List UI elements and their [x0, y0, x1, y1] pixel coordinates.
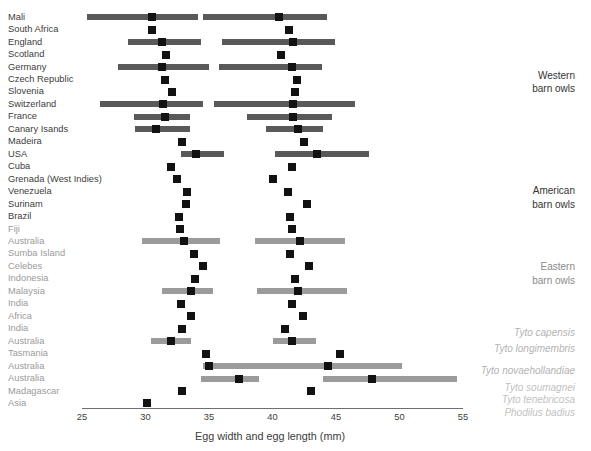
egg-width-mean-marker — [178, 138, 186, 146]
plot-area: MaliSouth AfricaEnglandScotlandGermanyCz… — [0, 0, 591, 451]
annotation-eastern-barn-owls: Eastern barn owls — [532, 260, 575, 287]
row-label: South Africa — [8, 24, 58, 34]
egg-length-mean-marker — [269, 175, 277, 183]
egg-length-mean-marker — [303, 200, 311, 208]
egg-length-range-bar — [222, 39, 335, 45]
egg-width-mean-marker — [187, 312, 195, 320]
egg-length-mean-marker — [299, 312, 307, 320]
row-label: Brazil — [8, 211, 31, 221]
egg-width-range-bar — [135, 126, 190, 132]
annotation-american-barn-owls: American barn owls — [532, 184, 575, 211]
egg-length-mean-marker — [291, 88, 299, 96]
egg-length-mean-marker — [294, 125, 302, 133]
egg-width-range-bar — [87, 14, 197, 20]
row-label: Canary Isands — [8, 124, 68, 134]
egg-width-mean-marker — [199, 262, 207, 270]
egg-length-mean-marker — [288, 63, 296, 71]
egg-length-mean-marker — [289, 38, 297, 46]
egg-width-mean-marker — [192, 150, 200, 158]
egg-width-mean-marker — [168, 88, 176, 96]
row-label: Mali — [8, 12, 25, 22]
egg-width-mean-marker — [177, 300, 185, 308]
row-label: Africa — [8, 311, 32, 321]
egg-width-mean-marker — [191, 275, 199, 283]
x-tick-label: 30 — [140, 412, 150, 422]
egg-length-mean-marker — [288, 225, 296, 233]
egg-width-mean-marker — [148, 13, 156, 21]
egg-length-mean-marker — [281, 325, 289, 333]
egg-width-mean-marker — [167, 163, 175, 171]
egg-length-range-bar — [323, 376, 456, 382]
egg-length-mean-marker — [305, 262, 313, 270]
egg-length-mean-marker — [289, 100, 297, 108]
row-label: England — [8, 37, 42, 47]
row-label: Germany — [8, 62, 46, 72]
row-label: Australia — [8, 336, 44, 346]
egg-length-mean-marker — [284, 188, 292, 196]
egg-length-range-bar — [203, 14, 327, 20]
egg-length-mean-marker — [288, 163, 296, 171]
row-label: USA — [8, 149, 27, 159]
egg-width-mean-marker — [187, 287, 195, 295]
row-label: Malaysia — [8, 286, 45, 296]
x-tick-label: 25 — [77, 412, 87, 422]
egg-width-mean-marker — [183, 188, 191, 196]
egg-length-mean-marker — [307, 387, 315, 395]
row-label: Australia — [8, 361, 44, 371]
row-label: Sumba Island — [8, 248, 65, 258]
egg-length-mean-marker — [294, 287, 302, 295]
x-tick-label: 35 — [204, 412, 214, 422]
egg-width-mean-marker — [161, 113, 169, 121]
egg-length-mean-marker — [293, 76, 301, 84]
row-label: Madeira — [8, 136, 42, 146]
row-label: Fiji — [8, 224, 20, 234]
egg-dimension-chart: MaliSouth AfricaEnglandScotlandGermanyCz… — [0, 0, 591, 451]
egg-width-mean-marker — [235, 375, 243, 383]
annotation-tyto-capensis: Tyto capensis — [514, 326, 575, 340]
x-tick-label: 45 — [331, 412, 341, 422]
row-label: Madagascar — [8, 386, 59, 396]
egg-width-mean-marker — [159, 100, 167, 108]
egg-width-mean-marker — [178, 325, 186, 333]
egg-length-mean-marker — [275, 13, 283, 21]
egg-width-mean-marker — [162, 51, 170, 59]
egg-length-mean-marker — [277, 51, 285, 59]
egg-width-mean-marker — [176, 225, 184, 233]
x-tick-label: 50 — [394, 412, 404, 422]
egg-width-mean-marker — [205, 362, 213, 370]
egg-width-mean-marker — [152, 125, 160, 133]
egg-length-mean-marker — [313, 150, 321, 158]
annotation-tyto-longimembris: Tyto longimembris — [494, 342, 575, 356]
row-label: Tasmania — [8, 348, 48, 358]
egg-length-range-bar — [275, 151, 369, 157]
row-label: Australia — [8, 373, 44, 383]
x-tick-label: 40 — [267, 412, 277, 422]
row-label: Asia — [8, 398, 26, 408]
egg-length-mean-marker — [336, 350, 344, 358]
row-label: India — [8, 323, 28, 333]
egg-length-range-bar — [214, 101, 355, 107]
egg-width-range-bar — [100, 101, 203, 107]
annotation-tyto-novaehollandiae: Tyto novaehollandiae — [481, 364, 575, 378]
egg-length-mean-marker — [296, 237, 304, 245]
egg-length-mean-marker — [368, 375, 376, 383]
egg-length-mean-marker — [291, 275, 299, 283]
row-label: Switzerland — [8, 99, 56, 109]
egg-width-range-bar — [201, 376, 258, 382]
row-label: Indonesia — [8, 273, 49, 283]
x-tick-label: 55 — [458, 412, 468, 422]
egg-length-range-bar — [219, 64, 322, 70]
egg-width-range-bar — [181, 151, 224, 157]
row-label: India — [8, 298, 28, 308]
egg-width-mean-marker — [148, 26, 156, 34]
egg-length-mean-marker — [300, 138, 308, 146]
egg-width-mean-marker — [182, 200, 190, 208]
egg-length-mean-marker — [286, 250, 294, 258]
egg-width-mean-marker — [143, 399, 151, 407]
egg-width-mean-marker — [167, 337, 175, 345]
egg-length-mean-marker — [289, 113, 297, 121]
row-label: Surinam — [8, 199, 43, 209]
row-label: France — [8, 111, 37, 121]
row-label: Cuba — [8, 161, 30, 171]
row-label: Scotland — [8, 49, 44, 59]
